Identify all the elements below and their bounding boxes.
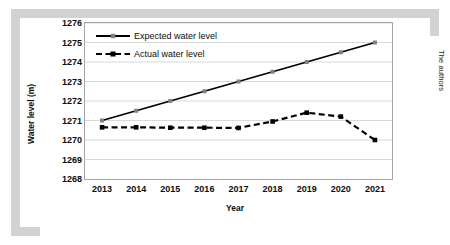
legend-label: Actual water level — [134, 49, 205, 60]
data-point-marker — [100, 125, 105, 130]
y-tick-label: 1276 — [44, 18, 82, 28]
legend-item[interactable]: Actual water level — [95, 46, 275, 62]
data-point-marker — [202, 89, 206, 93]
data-point-marker — [236, 126, 241, 131]
y-tick-label: 1272 — [44, 96, 82, 106]
data-point-marker — [339, 50, 343, 54]
y-tick-label: 1268 — [44, 174, 82, 184]
data-point-marker — [304, 110, 309, 115]
data-point-marker — [168, 99, 172, 103]
y-axis-tick-labels: 127612751274127312721271127012691268 — [38, 0, 82, 245]
y-tick-label: 1270 — [44, 135, 82, 145]
data-point-marker — [237, 80, 241, 84]
y-tick-label: 1275 — [44, 38, 82, 48]
data-point-marker — [100, 119, 104, 123]
y-axis-title: Water level (m) — [24, 62, 38, 166]
y-tick-label: 1274 — [44, 57, 82, 67]
x-axis-title: Year — [75, 203, 395, 213]
data-point-marker — [305, 60, 309, 64]
data-point-marker — [270, 119, 275, 124]
legend-label: Expected water level — [134, 31, 217, 42]
data-point-marker — [202, 125, 207, 130]
figure-credit: The authors — [434, 16, 448, 126]
data-point-marker — [271, 70, 275, 74]
data-point-marker — [134, 125, 139, 130]
legend-swatch-icon — [95, 29, 131, 43]
data-point-marker — [373, 138, 378, 143]
data-point-marker — [373, 41, 377, 45]
data-point-marker — [168, 125, 173, 130]
y-tick-label: 1271 — [44, 116, 82, 126]
x-tick-label: 2021 — [352, 184, 398, 194]
y-tick-label: 1269 — [44, 155, 82, 165]
data-point-marker — [339, 114, 344, 119]
y-tick-label: 1273 — [44, 77, 82, 87]
legend-swatch-icon — [95, 47, 131, 61]
legend-item[interactable]: Expected water level — [95, 28, 275, 44]
chart-legend: Expected water levelActual water level — [95, 28, 275, 64]
data-point-marker — [134, 109, 138, 113]
